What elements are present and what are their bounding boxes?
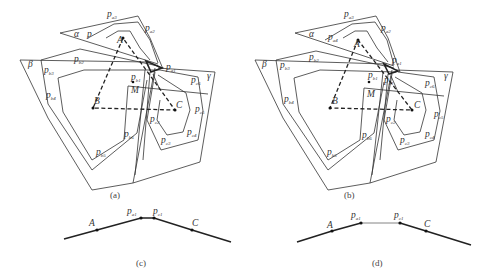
panel-a: α β γ A B C M pa3 pa2 p pa1 pb2 pb3 pb4 … xyxy=(20,9,215,200)
label-pa1: pa1 xyxy=(350,210,361,221)
label-beta: β xyxy=(27,59,33,69)
label-pa1: pa1 xyxy=(126,206,137,217)
caption-d: (d) xyxy=(372,258,383,268)
polygon-pb-inner xyxy=(58,70,208,160)
point-c-dot xyxy=(190,228,193,231)
label-pc6: pc6 xyxy=(190,75,201,86)
label-pb4: pb4 xyxy=(283,94,294,105)
label-pc4: pc4 xyxy=(186,127,197,138)
polygon-pa-inner xyxy=(343,31,388,62)
label-pc3: pc3 xyxy=(399,135,410,146)
label-pa1: pa1 xyxy=(391,55,402,66)
point-b-dot xyxy=(92,107,95,110)
point-a-dot xyxy=(95,228,98,231)
label-pc1: pc1 xyxy=(393,210,403,221)
label-point-a: A xyxy=(326,220,333,230)
label-point-a: A xyxy=(116,35,123,45)
label-beta: β xyxy=(261,59,267,69)
label-pb6: pb6 xyxy=(123,129,134,140)
label-pc3: pc3 xyxy=(160,135,171,146)
caption-a: (a) xyxy=(110,190,120,200)
label-pc5: pc5 xyxy=(194,104,205,115)
label-pc4: pc4 xyxy=(424,129,435,140)
point-pa1-dot xyxy=(139,216,142,219)
point-pa1-dot xyxy=(359,221,362,224)
label-point-c: C xyxy=(414,100,421,110)
label-alpha: α xyxy=(309,29,315,39)
point-b-dot xyxy=(329,107,332,110)
label-point-b: B xyxy=(94,96,100,106)
point-c-dot xyxy=(424,229,427,232)
label-point-a: A xyxy=(88,218,95,228)
point-pc1-dot xyxy=(152,216,155,219)
path-d-right xyxy=(400,223,471,245)
label-point-m: M xyxy=(130,85,140,95)
panel-d: A pa1 pc1 C (d) xyxy=(297,210,471,268)
label-point-a: A xyxy=(353,39,360,49)
label-pb1: pb1 xyxy=(130,72,141,83)
connector-line xyxy=(143,72,150,160)
label-pb5: pb5 xyxy=(326,147,337,158)
label-pc1: pc1 xyxy=(152,206,162,217)
polygon-pb-inner xyxy=(294,70,444,160)
label-pc2: pc2 xyxy=(149,114,160,125)
label-pb3: pb3 xyxy=(279,60,290,71)
polygon-pc-inner xyxy=(157,75,190,135)
label-pc5: pc5 xyxy=(433,109,444,120)
label-pa4: pa4 xyxy=(327,32,338,43)
label-pc6: pc6 xyxy=(424,78,435,89)
label-pa1: pa1 xyxy=(165,62,176,73)
panel-c: A pa1 pc1 C (c) xyxy=(64,206,231,268)
point-m-dot xyxy=(368,81,371,84)
label-pb5: pb5 xyxy=(95,147,106,158)
label-point-b: B xyxy=(332,96,338,106)
label-pa2: pa2 xyxy=(380,23,391,34)
caption-c: (c) xyxy=(136,258,146,268)
label-pa3: pa3 xyxy=(343,9,354,20)
point-pc1-dot xyxy=(398,221,401,224)
label-pb2: pb2 xyxy=(73,54,84,65)
label-pa4: p xyxy=(86,29,92,39)
label-gamma: γ xyxy=(207,71,211,81)
label-pb3: pb3 xyxy=(43,65,54,76)
label-point-c: C xyxy=(176,100,183,110)
label-point-m: M xyxy=(366,89,376,99)
label-pb6: pb6 xyxy=(361,130,372,141)
label-pa2: pa2 xyxy=(144,23,155,34)
label-gamma: γ xyxy=(444,71,448,81)
figure-canvas: α β γ A B C M pa3 pa2 p pa1 pb2 pb3 pb4 … xyxy=(0,0,482,275)
panel-b: α β γ A B C M pa3 pa2 pa4 pa1 pb2 pb3 pb… xyxy=(255,9,453,200)
polygon-pc-inner xyxy=(394,77,426,135)
label-alpha: α xyxy=(74,29,80,39)
label-pb4: pb4 xyxy=(45,90,56,101)
label-pa3: pa3 xyxy=(106,9,117,20)
label-pb2: pb2 xyxy=(308,52,319,63)
caption-b: (b) xyxy=(344,190,355,200)
label-point-c: C xyxy=(192,218,199,228)
label-point-c: C xyxy=(424,219,431,229)
